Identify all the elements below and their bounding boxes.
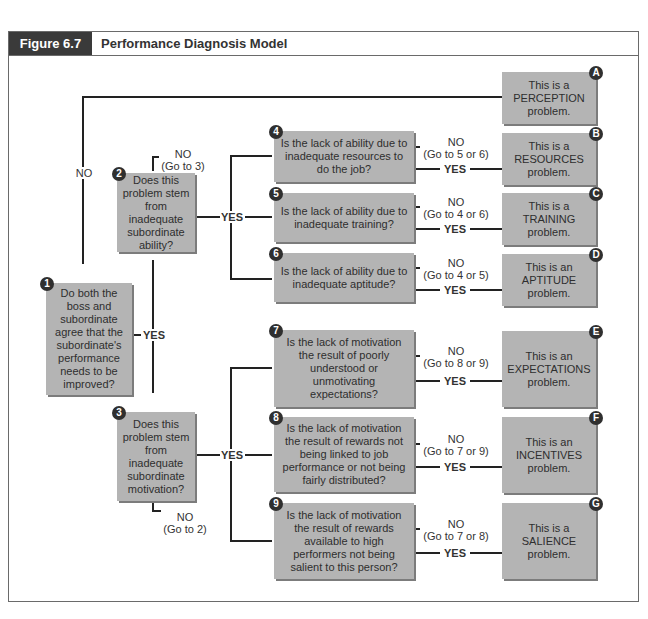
question-text: Is the lack of ability due to inadequate… bbox=[278, 137, 410, 176]
step-badge-8: 8 bbox=[269, 411, 283, 425]
step-badge-9: 9 bbox=[269, 497, 283, 511]
connector-line bbox=[152, 156, 154, 171]
question-box-2: Does this problem stem from inadequate s… bbox=[117, 173, 195, 252]
no-goto: (Go to 4 or 5) bbox=[423, 269, 488, 281]
yes-label-q7: YES bbox=[440, 375, 470, 387]
question-text: Do both the boss and subordinate agree t… bbox=[50, 287, 128, 391]
connector-line bbox=[414, 206, 420, 208]
step-badge-3: 3 bbox=[112, 406, 126, 420]
outcome-badge-g: G bbox=[589, 497, 603, 511]
outcome-box-e: This is an EXPECTATIONS problem. bbox=[502, 331, 596, 407]
question-text: Is the lack of ability due to inadequate… bbox=[278, 265, 410, 291]
no-goto: (Go to 3) bbox=[161, 160, 204, 172]
no-text: NO bbox=[448, 257, 465, 269]
figure-titlebar: Figure 6.7 Performance Diagnosis Model bbox=[9, 32, 638, 56]
no-label-q6: NO(Go to 4 or 5) bbox=[422, 257, 490, 281]
outcome-text: This is an INCENTIVES problem. bbox=[511, 436, 587, 475]
outcome-text: This is a TRAINING problem. bbox=[511, 200, 587, 239]
outcome-text: This is a RESOURCES problem. bbox=[511, 140, 587, 179]
step-badge-5: 5 bbox=[269, 187, 283, 201]
question-box-1: Do both the boss and subordinate agree t… bbox=[46, 283, 132, 395]
step-badge-4: 4 bbox=[269, 125, 283, 139]
connector-line bbox=[230, 155, 272, 157]
no-goto: (Go to 7 or 8) bbox=[423, 530, 488, 542]
figure-title: Performance Diagnosis Model bbox=[101, 32, 287, 55]
outcome-box-b: This is a RESOURCES problem. bbox=[502, 133, 596, 185]
connector-line bbox=[82, 96, 84, 264]
no-text: NO bbox=[448, 433, 465, 445]
question-text: Is the lack of motivation the result of … bbox=[278, 336, 410, 401]
connector-line bbox=[152, 510, 161, 512]
outcome-box-f: This is an INCENTIVES problem. bbox=[502, 417, 596, 493]
outcome-text: This is an APTITUDE problem. bbox=[511, 261, 587, 300]
no-goto: (Go to 8 or 9) bbox=[423, 357, 488, 369]
connector-line bbox=[414, 443, 420, 445]
connector-line bbox=[245, 216, 272, 218]
question-box-8: Is the lack of motivation the result of … bbox=[274, 417, 414, 492]
no-label-q7: NO(Go to 8 or 9) bbox=[422, 345, 490, 369]
step-badge-2: 2 bbox=[112, 167, 126, 181]
no-label-q1: NO bbox=[72, 167, 96, 179]
connector-line bbox=[414, 355, 420, 357]
question-text: Does this problem stem from inadequate s… bbox=[121, 418, 191, 496]
question-box-5: Is the lack of ability due to inadequate… bbox=[274, 193, 414, 242]
step-badge-1: 1 bbox=[40, 277, 54, 291]
outcome-badge-e: E bbox=[589, 325, 603, 339]
no-goto: (Go to 2) bbox=[163, 523, 206, 535]
no-label-q4: NO(Go to 5 or 6) bbox=[422, 136, 490, 160]
yes-label-q9: YES bbox=[440, 547, 470, 559]
question-box-7: Is the lack of motivation the result of … bbox=[274, 330, 414, 407]
question-text: Is the lack of motivation the result of … bbox=[278, 422, 410, 487]
connector-line bbox=[414, 267, 420, 269]
no-text: NO bbox=[448, 345, 465, 357]
question-box-3: Does this problem stem from inadequate s… bbox=[117, 412, 195, 501]
outcome-box-a: This is a PERCEPTION problem. bbox=[502, 72, 596, 124]
no-label-q5: NO(Go to 4 or 6) bbox=[422, 196, 490, 220]
question-text: Is the lack of ability due to inadequate… bbox=[278, 205, 410, 231]
connector-line bbox=[82, 96, 502, 98]
connector-line bbox=[152, 156, 159, 158]
outcome-badge-c: C bbox=[589, 187, 603, 201]
outcome-badge-f: F bbox=[589, 411, 603, 425]
outcome-text: This is a PERCEPTION problem. bbox=[511, 79, 587, 118]
yes-label-q3: YES bbox=[220, 449, 244, 461]
connector-line bbox=[195, 454, 220, 456]
connector-line bbox=[152, 260, 154, 393]
no-label-q9: NO(Go to 7 or 8) bbox=[422, 518, 490, 542]
no-text: NO bbox=[448, 196, 465, 208]
outcome-box-c: This is a TRAINING problem. bbox=[502, 193, 596, 245]
no-text: NO bbox=[175, 148, 192, 160]
step-badge-6: 6 bbox=[269, 247, 283, 261]
yes-label-q6: YES bbox=[440, 284, 470, 296]
outcome-badge-a: A bbox=[589, 66, 603, 80]
yes-label-q4: YES bbox=[440, 163, 470, 175]
question-box-9: Is the lack of motivation the result of … bbox=[274, 503, 414, 579]
yes-label-q8: YES bbox=[440, 461, 470, 473]
no-label-q3: NO (Go to 2) bbox=[162, 511, 208, 535]
connector-line bbox=[230, 278, 272, 280]
outcome-box-g: This is a SALIENCE problem. bbox=[502, 503, 596, 579]
question-text: Does this problem stem from inadequate s… bbox=[121, 174, 191, 252]
question-text: Is the lack of motivation the result of … bbox=[278, 509, 410, 574]
no-goto: (Go to 5 or 6) bbox=[423, 148, 488, 160]
yes-label-q5: YES bbox=[440, 223, 470, 235]
no-goto: (Go to 4 or 6) bbox=[423, 208, 488, 220]
question-box-4: Is the lack of ability due to inadequate… bbox=[274, 131, 414, 182]
connector-line bbox=[230, 367, 272, 369]
connector-line bbox=[230, 540, 272, 542]
question-box-6: Is the lack of ability due to inadequate… bbox=[274, 253, 414, 302]
yes-label-q2: YES bbox=[220, 211, 244, 223]
figure-number: Figure 6.7 bbox=[9, 32, 92, 55]
outcome-badge-b: B bbox=[589, 127, 603, 141]
no-goto: (Go to 7 or 9) bbox=[423, 445, 488, 457]
connector-line bbox=[414, 146, 420, 148]
no-text: NO bbox=[448, 136, 465, 148]
outcome-text: This is a SALIENCE problem. bbox=[511, 522, 587, 561]
connector-line bbox=[414, 528, 420, 530]
connector-line bbox=[245, 454, 272, 456]
step-badge-7: 7 bbox=[269, 324, 283, 338]
outcome-text: This is an EXPECTATIONS problem. bbox=[507, 350, 591, 389]
outcome-box-d: This is an APTITUDE problem. bbox=[502, 254, 596, 306]
no-text: NO bbox=[448, 518, 465, 530]
no-label-q8: NO(Go to 7 or 9) bbox=[422, 433, 490, 457]
